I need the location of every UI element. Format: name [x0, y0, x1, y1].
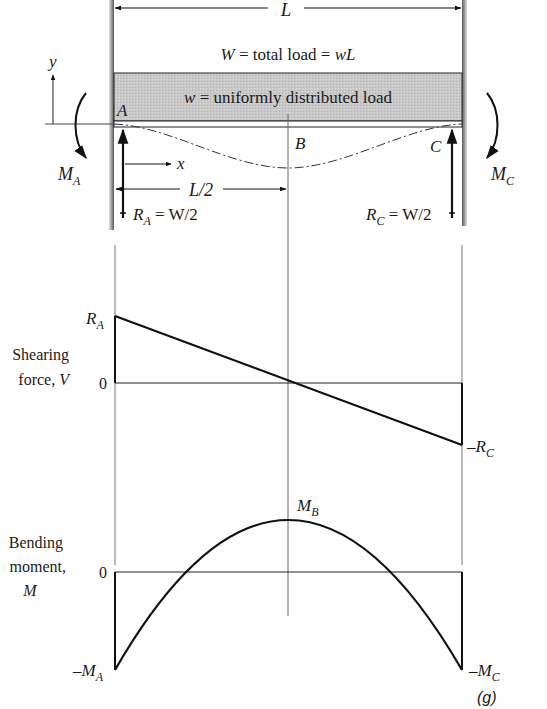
- moment-a-label: MA: [57, 164, 81, 188]
- moment-c-label: MC: [490, 164, 515, 188]
- shear-zero-label: 0: [99, 375, 107, 392]
- distributed-load-label: w = uniformly distributed load: [184, 88, 392, 107]
- shear-top-label: RA: [85, 309, 104, 332]
- shear-ylabel-line2: force, V: [18, 371, 71, 388]
- half-span-label: L/2: [188, 180, 213, 200]
- shear-bottom-label: –RC: [466, 437, 495, 460]
- moment-zero-label: 0: [99, 564, 107, 581]
- point-c-label: C: [430, 137, 442, 156]
- moment-ylabel-var: M: [22, 582, 38, 599]
- shear-diagram: Shearing force, V 0 RA –RC: [12, 309, 495, 460]
- reaction-c-label: RC = W/2: [365, 205, 431, 228]
- span-label: L: [280, 0, 292, 20]
- fixed-beam-diagram: L W = total load = wL w = uniformly dist…: [0, 0, 547, 709]
- right-wall: [462, 0, 467, 226]
- reaction-a-label: RA = W/2: [132, 205, 198, 228]
- moment-ylabel-line2: moment,: [10, 558, 66, 575]
- figure-label: (g): [477, 689, 497, 706]
- moment-peak-label: MB: [296, 496, 319, 519]
- point-a-label: A: [116, 101, 128, 120]
- moment-left-label: –MA: [72, 661, 104, 684]
- left-wall: [109, 0, 114, 230]
- y-axis-label: y: [47, 52, 57, 71]
- moment-ylabel-line1: Bending: [9, 534, 63, 552]
- x-axis-label: x: [176, 154, 185, 173]
- point-b-label: B: [295, 134, 306, 153]
- moment-c-arrow: [487, 93, 498, 158]
- moment-diagram: Bending moment, M 0 MB –MA –MC: [9, 496, 501, 684]
- moment-right-label: –MC: [468, 661, 501, 684]
- total-load-label: W = total load = wL: [221, 45, 356, 64]
- moment-a-arrow: [76, 93, 87, 158]
- shear-ylabel-line1: Shearing: [12, 346, 69, 364]
